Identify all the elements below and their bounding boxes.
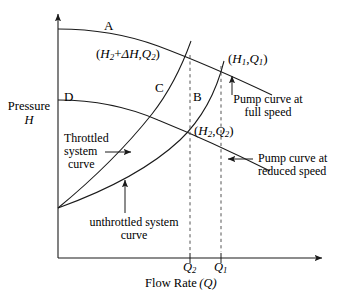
x-tick-label-q1: Q1 bbox=[214, 261, 227, 275]
q1-sub: 1 bbox=[223, 265, 227, 275]
y-axis-label-line1: Pressure bbox=[8, 99, 50, 113]
diagram-canvas bbox=[0, 0, 338, 296]
annotation-pump-curve-reduced-speed: Pump curve at reduced speed bbox=[258, 152, 327, 178]
h-symbol: H bbox=[100, 46, 109, 61]
plus-symbol: + bbox=[114, 46, 121, 61]
throttled-line1: Throttled bbox=[64, 131, 109, 145]
x-axis-label-paren: (Q) bbox=[199, 276, 216, 290]
curve-label-b: B bbox=[193, 90, 202, 104]
paren-close: ) bbox=[229, 123, 233, 138]
throttled-line3: curve bbox=[64, 157, 95, 171]
x-tick-label-q2: Q2 bbox=[183, 261, 196, 275]
q-symbol: Q bbox=[249, 51, 258, 66]
h-symbol: H bbox=[232, 51, 241, 66]
q-symbol: Q bbox=[215, 123, 224, 138]
paren-close: ) bbox=[263, 51, 267, 66]
y-axis-label: Pressure H bbox=[4, 100, 54, 127]
curve-label-c: C bbox=[155, 81, 164, 95]
q2-base: Q bbox=[183, 260, 192, 274]
annotation-pump-curve-full-speed: Pump curve at full speed bbox=[224, 93, 312, 119]
annotation-unthrottled-system-curve: unthrottled system curve bbox=[84, 216, 184, 242]
pump-full-line1: Pump curve at bbox=[233, 92, 302, 106]
point-label-h1-q1: (H1,Q1) bbox=[228, 52, 268, 68]
annotation-throttled-system-curve: Throttled system curve bbox=[64, 132, 109, 171]
h-symbol: H bbox=[198, 123, 207, 138]
curve-label-a: A bbox=[104, 19, 113, 33]
pump-reduced-line2: reduced speed bbox=[258, 164, 326, 178]
q-symbol: Q bbox=[142, 46, 151, 61]
curve-label-d: D bbox=[64, 90, 73, 104]
pump-reduced-line1: Pump curve at bbox=[258, 151, 327, 165]
point-label-h2-plus-delta-h-q2: (H2+ΔH,Q2) bbox=[96, 47, 160, 63]
unthrottled-line1: unthrottled system bbox=[90, 215, 179, 229]
y-axis-label-line2: H bbox=[24, 113, 33, 127]
pump-curve-figure: Pressure H Flow Rate (Q) Q2 Q1 A B C D (… bbox=[0, 0, 338, 296]
q1-base: Q bbox=[214, 260, 223, 274]
x-axis-label: Flow Rate (Q) bbox=[145, 277, 217, 291]
throttled-line2: system bbox=[64, 144, 97, 158]
q2-sub: 2 bbox=[192, 265, 196, 275]
point-label-h2-q2: (H2,Q2) bbox=[194, 124, 234, 140]
delta-h-symbol: ΔH bbox=[122, 46, 139, 61]
pump-full-line2: full speed bbox=[245, 105, 292, 119]
paren-close: ) bbox=[156, 46, 160, 61]
x-axis-label-text: Flow Rate bbox=[145, 276, 197, 290]
unthrottled-line2: curve bbox=[121, 228, 148, 242]
